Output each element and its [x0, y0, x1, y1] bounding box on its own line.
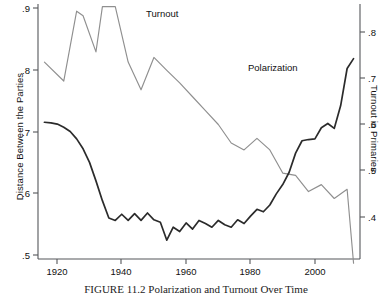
- x-tick-label-1920: 1920: [37, 266, 77, 277]
- right-tick-label-0: .8: [368, 27, 386, 38]
- right-tick-label-4: .4: [368, 212, 386, 223]
- series-line-polarization: [44, 59, 353, 241]
- x-tick-label-2000: 2000: [295, 266, 335, 277]
- right-tick-label-2: .6: [368, 119, 386, 130]
- x-tick-label-1980: 1980: [230, 266, 270, 277]
- left-tick-label-3: .6: [12, 188, 30, 199]
- right-tick-label-1: .7: [368, 73, 386, 84]
- figure-polarization-turnout: Distance Between the Parties Turnout in …: [0, 0, 392, 297]
- x-tick-label-1960: 1960: [166, 266, 206, 277]
- chart-canvas: [0, 0, 392, 297]
- left-tick-label-2: .7: [12, 127, 30, 138]
- left-axis-ticks: [33, 8, 38, 255]
- x-axis-ticks: [57, 259, 315, 264]
- left-tick-label-1: .8: [12, 65, 30, 76]
- x-tick-label-1940: 1940: [101, 266, 141, 277]
- left-tick-label-4: .5: [12, 250, 30, 261]
- figure-caption: FIGURE 11.2 Polarization and Turnout Ove…: [0, 283, 392, 295]
- right-tick-label-3: .5: [368, 165, 386, 176]
- series-label-polarization: Polarization: [248, 62, 298, 73]
- series-label-turnout: Turnout: [146, 8, 178, 19]
- right-axis-ticks: [360, 32, 365, 217]
- series-line-turnout: [44, 7, 353, 264]
- left-tick-label-0: .9: [12, 3, 30, 14]
